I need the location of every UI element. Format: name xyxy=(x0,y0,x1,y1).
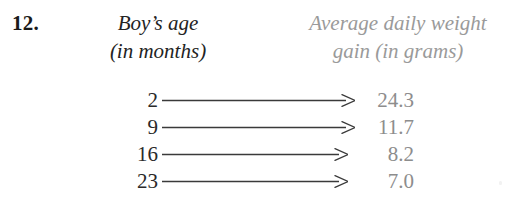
mapping-arrow-icon xyxy=(162,90,355,111)
mapping-row-domain-value: 16 xyxy=(96,144,158,165)
column-header-domain-line2: (in months) xyxy=(68,38,248,66)
mapping-row-domain-value: 23 xyxy=(96,171,158,192)
mapping-rows: 224.3911.7168.2237.0 xyxy=(0,90,520,198)
mapping-arrow-icon xyxy=(162,117,355,138)
mapping-row-domain-value: 2 xyxy=(96,90,158,111)
mapping-row-range-value: 24.3 xyxy=(352,90,414,111)
mapping-arrow-icon xyxy=(162,144,348,165)
exercise-block: 12. Boy’s age (in months) Average daily … xyxy=(0,0,520,207)
column-header-range-line2: gain (in grams) xyxy=(276,38,520,66)
column-header-domain: Boy’s age (in months) xyxy=(68,10,248,66)
column-header-range-line1: Average daily weight xyxy=(276,10,520,38)
mapping-arrow-icon xyxy=(162,171,348,192)
column-header-domain-line1: Boy’s age xyxy=(68,10,248,38)
column-header-range: Average daily weight gain (in grams) xyxy=(276,10,520,66)
mapping-row: 237.0 xyxy=(0,171,520,198)
exercise-number: 12. xyxy=(12,13,39,34)
mapping-row-range-value: 7.0 xyxy=(352,171,414,192)
mapping-row: 911.7 xyxy=(0,117,520,144)
mapping-row: 168.2 xyxy=(0,144,520,171)
mapping-row-range-value: 8.2 xyxy=(352,144,414,165)
mapping-row-range-value: 11.7 xyxy=(352,117,414,138)
mapping-row-domain-value: 9 xyxy=(96,117,158,138)
scan-artifact xyxy=(499,181,502,185)
mapping-row: 224.3 xyxy=(0,90,520,117)
